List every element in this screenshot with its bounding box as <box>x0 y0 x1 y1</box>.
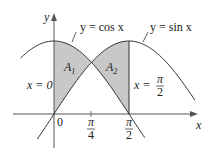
shaded-region <box>92 41 130 114</box>
sin-curve-label: y = sin x <box>150 20 192 34</box>
tick-pi-over-2-pi: π <box>126 115 133 129</box>
tick-pi-over-2-two: 2 <box>126 128 132 142</box>
x-axis-arrow-icon <box>190 111 198 117</box>
x-axis-label: x <box>195 118 202 132</box>
cos-curve-label: y = cos x <box>80 20 124 34</box>
area-between-curves-diagram: y x y = cos x y = sin x A1 A2 x = 0 x = … <box>0 0 211 152</box>
sin-label-leader <box>143 32 148 42</box>
y-axis-label: y <box>43 10 50 24</box>
y-axis-arrow-icon <box>51 13 57 21</box>
line-x-pi-over-2-label: x = <box>133 78 150 92</box>
tick-pi-over-4-four: 4 <box>88 128 94 142</box>
shaded-region <box>54 41 92 114</box>
frac-two: 2 <box>157 85 163 99</box>
frac-pi: π <box>157 72 164 86</box>
line-x0-label: x = 0 <box>26 78 52 92</box>
tick-label-zero: 0 <box>57 115 63 129</box>
shaded-regions <box>54 41 129 114</box>
cos-label-leader <box>72 32 76 42</box>
tick-pi-over-4-pi: π <box>88 115 95 129</box>
